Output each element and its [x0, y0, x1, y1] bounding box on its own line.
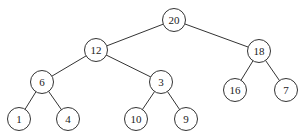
tree-node: 1 — [7, 107, 31, 131]
tree-node: 18 — [247, 39, 271, 63]
tree-node: 9 — [174, 107, 198, 131]
binary-tree-diagram: 20 12 18 6 3 16 7 1 4 10 9 — [0, 0, 300, 139]
tree-node: 10 — [124, 107, 148, 131]
tree-node: 7 — [274, 78, 298, 102]
tree-node: 4 — [56, 107, 80, 131]
tree-node: 20 — [162, 8, 186, 32]
tree-node: 3 — [149, 70, 173, 94]
tree-edge — [174, 20, 259, 51]
tree-node: 12 — [84, 38, 108, 62]
tree-node: 16 — [223, 78, 247, 102]
tree-node: 6 — [30, 70, 54, 94]
